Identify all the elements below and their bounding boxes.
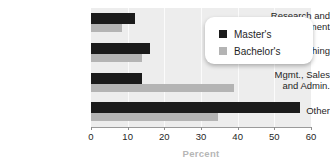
bar-bachelor-s: [91, 24, 122, 32]
y-axis-label: Mgmt., Salesand Admin.: [244, 69, 330, 91]
bar-master-s: [91, 13, 135, 24]
x-tick-mark: [311, 127, 312, 130]
y-axis-label-line: Mgmt., Sales: [244, 69, 330, 80]
x-tick-mark: [238, 127, 239, 130]
x-tick-mark: [128, 127, 129, 130]
bar-bachelor-s: [91, 84, 234, 92]
x-tick-label: 50: [261, 131, 287, 142]
legend-swatch-bachelors-icon: [219, 47, 227, 55]
x-tick-mark: [201, 127, 202, 130]
legend-item-label: Bachelor's: [234, 46, 280, 57]
x-tick-label: 0: [78, 131, 104, 142]
x-axis-title: Percent: [91, 148, 311, 159]
chart-legend: Master'sBachelor's: [205, 17, 313, 64]
x-tick-label: 10: [115, 131, 141, 142]
bar-bachelor-s: [91, 54, 142, 62]
y-axis-label-line: and Admin.: [244, 80, 330, 91]
bar-chart: Research andDevelopmentTeachingMgmt., Sa…: [0, 0, 330, 167]
bar-master-s: [91, 73, 142, 84]
legend-item-label: Master's: [234, 29, 271, 40]
y-axis-label-line: Other: [244, 105, 330, 116]
x-tick-label: 60: [298, 131, 324, 142]
y-axis-label: Other: [244, 105, 330, 116]
legend-item[interactable]: Bachelor's: [219, 44, 280, 58]
x-tick-mark: [274, 127, 275, 130]
bar-bachelor-s: [91, 113, 218, 121]
x-tick-label: 40: [225, 131, 251, 142]
x-tick-mark: [91, 127, 92, 130]
x-tick-label: 30: [188, 131, 214, 142]
legend-swatch-masters-icon: [219, 30, 227, 38]
legend-item[interactable]: Master's: [219, 27, 271, 41]
bar-master-s: [91, 43, 150, 54]
x-tick-mark: [164, 127, 165, 130]
x-tick-label: 20: [151, 131, 177, 142]
